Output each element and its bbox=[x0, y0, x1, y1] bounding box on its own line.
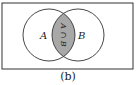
intersection-label: A ∩ B bbox=[59, 22, 68, 47]
set-b-label: B bbox=[77, 30, 85, 41]
figure-caption: (b) bbox=[0, 70, 136, 83]
set-a-label: A bbox=[39, 30, 47, 41]
